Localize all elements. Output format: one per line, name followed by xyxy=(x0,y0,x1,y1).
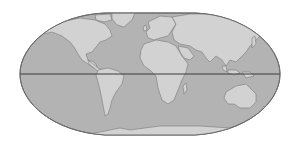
world-map xyxy=(0,0,300,145)
world-map-svg xyxy=(0,0,300,145)
